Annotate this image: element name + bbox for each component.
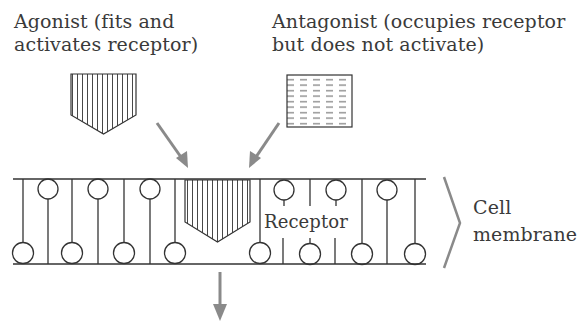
- agonist-icon: [71, 74, 136, 134]
- agonist-arrow-icon: [157, 123, 188, 168]
- drug-receptor-diagram: Agonist (fits and activates receptor) An…: [0, 0, 580, 330]
- bracket-icon: [444, 177, 460, 268]
- antagonist-arrow-icon: [249, 123, 279, 168]
- receptor-lines: [283, 179, 335, 264]
- antagonist-icon: [287, 75, 352, 127]
- bound-agonist-icon: [185, 180, 250, 242]
- response-arrow-icon: [213, 272, 227, 321]
